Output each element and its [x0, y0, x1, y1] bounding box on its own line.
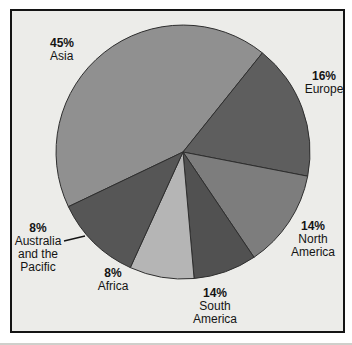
- pie-label-australia-name-line-2: Pacific: [15, 261, 62, 274]
- pie-label-europe: 16%Europe: [305, 70, 344, 96]
- pie-label-north-america: 14%NorthAmerica: [291, 220, 335, 259]
- pie-label-north-america-name-line-1: America: [291, 246, 335, 259]
- pie-label-africa-name-line-0: Africa: [98, 280, 129, 293]
- pie-label-south-america-name-line-1: America: [193, 313, 237, 326]
- pie-label-africa: 8%Africa: [98, 267, 129, 293]
- pie-label-asia-name-line-0: Asia: [50, 50, 74, 63]
- callout-line-australia: [64, 236, 85, 241]
- pie-label-asia: 45%Asia: [50, 37, 74, 63]
- pie-label-europe-name-line-0: Europe: [305, 83, 344, 96]
- figure: 45%Asia16%Europe14%NorthAmerica14%SouthA…: [0, 0, 352, 345]
- pie-label-south-america: 14%SouthAmerica: [193, 287, 237, 326]
- pie-label-australia: 8%Australiaand thePacific: [15, 222, 62, 274]
